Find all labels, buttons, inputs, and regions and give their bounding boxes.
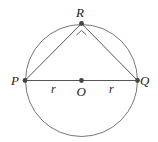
angle-mark	[77, 31, 87, 36]
point-p	[23, 78, 28, 83]
diagram-canvas: R P Q O r r	[0, 0, 158, 142]
label-o: O	[77, 84, 87, 99]
label-r-right: r	[109, 82, 114, 96]
label-r-left: r	[51, 82, 56, 96]
label-p: P	[10, 73, 19, 88]
label-r: R	[75, 5, 84, 20]
point-r	[79, 21, 84, 26]
point-o	[79, 78, 84, 83]
label-q: Q	[140, 73, 150, 88]
